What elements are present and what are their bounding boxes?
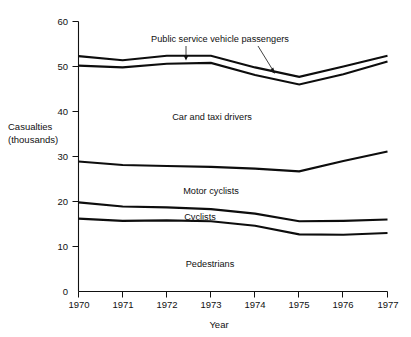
public-service-callout: Public service vehicle passengers: [151, 34, 289, 74]
callout-arrowhead-left: [184, 56, 189, 61]
series-label-public-service-vehicle-passengers: Public service vehicle passengers: [151, 34, 289, 44]
y-tick-label-20: 20: [57, 196, 68, 207]
y-axis-ticks: [73, 22, 79, 247]
x-tick-label-1971: 1971: [112, 299, 133, 310]
y-tick-label-50: 50: [57, 61, 68, 72]
x-tick-label-1972: 1972: [156, 299, 177, 310]
y-axis-tick-labels: 60 50 40 30 20 10 0: [57, 16, 68, 297]
y-tick-label-10: 10: [57, 241, 68, 252]
series-line-motor-cyclists: [79, 152, 388, 172]
x-tick-label-1974: 1974: [244, 299, 265, 310]
chart-plot-area: 60 50 40 30 20 10 0 1970: [0, 0, 411, 337]
x-tick-label-1973: 1973: [200, 299, 221, 310]
y-tick-label-40: 40: [57, 106, 68, 117]
series-label-pedestrians: Pedestrians: [186, 259, 235, 269]
y-axis-title-line1: Casualties: [8, 121, 53, 132]
x-tick-label-1970: 1970: [68, 299, 89, 310]
y-axis-title-line2: (thousands): [8, 134, 58, 145]
x-tick-label-1975: 1975: [288, 299, 309, 310]
series-labels-group: Car and taxi drivers Motor cyclists Cycl…: [172, 112, 252, 269]
x-axis-title: Year: [209, 319, 228, 330]
x-tick-label-1977: 1977: [377, 299, 398, 310]
series-label-car-and-taxi-drivers: Car and taxi drivers: [172, 112, 252, 122]
x-tick-label-1976: 1976: [332, 299, 353, 310]
series-lines-group: [79, 56, 388, 235]
x-axis-ticks: [79, 292, 388, 298]
series-label-motor-cyclists: Motor cyclists: [183, 186, 239, 196]
series-line-car-and-taxi-drivers: [79, 62, 388, 85]
y-tick-label-60: 60: [57, 16, 68, 27]
series-line-cyclists: [79, 202, 388, 221]
casualties-by-road-user-chart: 60 50 40 30 20 10 0 1970: [0, 0, 411, 337]
y-tick-label-30: 30: [57, 151, 68, 162]
series-label-cyclists: Cyclists: [184, 212, 216, 222]
y-tick-label-0: 0: [63, 286, 68, 297]
x-axis-tick-labels: 1970 1971 1972 1973 1974 1975 1976 1977: [68, 299, 398, 310]
